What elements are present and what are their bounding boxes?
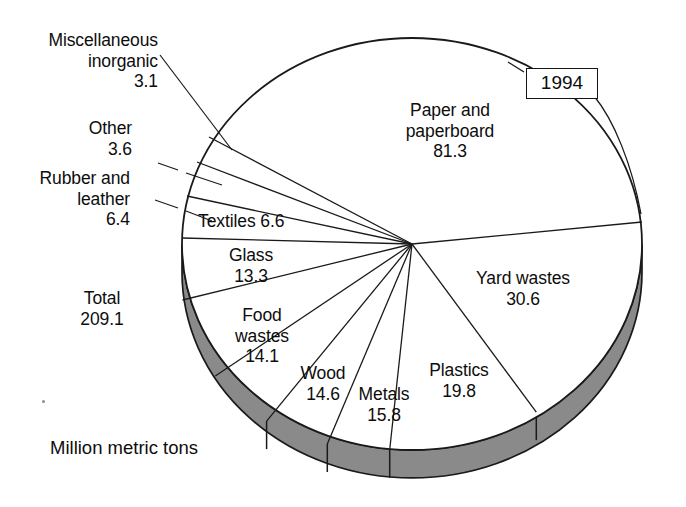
label-total: Total209.1 <box>52 288 152 329</box>
label-paper-line2: paperboard <box>406 121 495 141</box>
label-paper-line1: Paper and <box>410 100 490 120</box>
label-plastics-value: 19.8 <box>442 381 476 401</box>
label-other: Other3.6 <box>0 118 132 159</box>
label-wood-line1: Wood <box>301 363 346 383</box>
label-misc-line2: inorganic <box>88 51 158 71</box>
label-yard-line1: Yard wastes <box>476 268 570 288</box>
year-badge: 1994 <box>526 68 598 99</box>
units-caption-text: Million metric tons <box>50 437 198 458</box>
label-paper-value: 81.3 <box>433 141 467 161</box>
label-textiles-text: Textiles 6.6 <box>198 211 284 231</box>
label-food-wastes: Foodwastes14.1 <box>218 305 306 367</box>
label-metals-value: 15.8 <box>367 405 401 425</box>
label-rubber-line2: leather <box>77 189 130 209</box>
pie-chart-figure: Miscellaneousinorganic3.1 Other3.6 Rubbe… <box>0 0 686 507</box>
year-badge-text: 1994 <box>541 72 583 93</box>
label-metals: Metals15.8 <box>343 384 425 425</box>
label-total-value: 209.1 <box>80 309 123 329</box>
scan-artifact-speck <box>42 400 45 403</box>
label-food-line1: Food <box>242 305 282 325</box>
label-plastics: Plastics19.8 <box>414 360 504 401</box>
label-yard-value: 30.6 <box>506 289 540 309</box>
label-glass-value: 13.3 <box>234 266 268 286</box>
label-metals-line1: Metals <box>359 384 410 404</box>
label-total-line1: Total <box>84 288 120 308</box>
label-wood-value: 14.6 <box>306 384 340 404</box>
label-misc-line1: Miscellaneous <box>48 30 158 50</box>
label-plastics-line1: Plastics <box>429 360 489 380</box>
label-glass-line1: Glass <box>229 245 273 265</box>
label-other-line1: Other <box>89 118 132 138</box>
label-rubber-and-leather: Rubber andleather6.4 <box>0 168 130 230</box>
label-rubber-line1: Rubber and <box>40 168 130 188</box>
label-other-value: 3.6 <box>108 139 132 159</box>
label-rubber-value: 6.4 <box>106 209 130 229</box>
label-yard-wastes: Yard wastes30.6 <box>458 268 588 309</box>
label-textiles: Textiles 6.6 <box>198 211 284 232</box>
label-food-value: 14.1 <box>245 346 279 366</box>
label-glass: Glass13.3 <box>206 245 296 286</box>
units-caption: Million metric tons <box>50 437 198 459</box>
label-miscellaneous-inorganic: Miscellaneousinorganic3.1 <box>0 30 158 92</box>
label-misc-value: 3.1 <box>134 71 158 91</box>
label-food-line2: wastes <box>235 326 289 346</box>
label-paper-and-paperboard: Paper andpaperboard81.3 <box>380 100 520 162</box>
